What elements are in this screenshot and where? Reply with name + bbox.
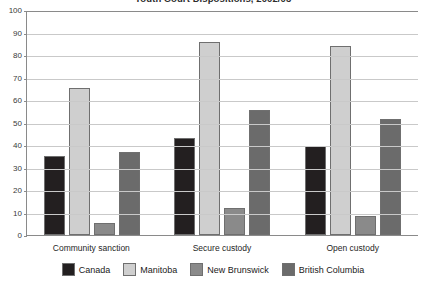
legend-swatch-icon xyxy=(123,263,136,276)
y-axis-tick-mark xyxy=(24,124,27,125)
y-axis-tick-mark xyxy=(24,79,27,80)
x-axis-category-label: Community sanction xyxy=(26,243,157,253)
bar xyxy=(119,152,140,235)
y-axis-tick-label: 80 xyxy=(0,52,22,60)
x-axis-category-labels: Community sanctionSecure custodyOpen cus… xyxy=(26,243,418,253)
chart-title: Youth Court Dispositions, 2002/03 xyxy=(0,0,426,5)
legend-item[interactable]: Canada xyxy=(62,263,111,276)
legend-swatch-icon xyxy=(62,263,75,276)
y-axis-tick-label: 30 xyxy=(0,165,22,173)
legend-label: Canada xyxy=(79,265,111,275)
grid-line xyxy=(27,146,418,147)
bar xyxy=(380,119,401,235)
y-axis-tick-label: 0 xyxy=(0,232,22,240)
legend-swatch-icon xyxy=(190,263,203,276)
grid-line xyxy=(27,169,418,170)
y-axis-tick-label: 100 xyxy=(0,7,22,15)
y-axis-tick-mark xyxy=(24,214,27,215)
grid-line xyxy=(27,79,418,80)
legend-item[interactable]: British Columbia xyxy=(282,263,365,276)
grid-line xyxy=(27,34,418,35)
y-axis-tick-label: 90 xyxy=(0,30,22,38)
chart-legend: CanadaManitobaNew BrunswickBritish Colum… xyxy=(0,263,426,276)
x-axis-category-label: Open custody xyxy=(287,243,418,253)
plot-wrapper: 1009080706050403020100 xyxy=(0,8,426,240)
legend-item[interactable]: Manitoba xyxy=(123,263,177,276)
y-axis-tick-mark xyxy=(24,169,27,170)
y-axis-tick-mark xyxy=(24,56,27,57)
grid-line xyxy=(27,191,418,192)
y-axis-tick-mark xyxy=(24,146,27,147)
x-axis-category-label: Secure custody xyxy=(157,243,288,253)
bar xyxy=(199,42,220,236)
y-axis: 1009080706050403020100 xyxy=(0,8,22,240)
y-axis-tick-label: 50 xyxy=(0,120,22,128)
y-axis-tick-label: 20 xyxy=(0,187,22,195)
y-axis-tick-label: 10 xyxy=(0,210,22,218)
plot-area xyxy=(26,11,418,236)
legend-label: New Brunswick xyxy=(207,265,269,275)
legend-item[interactable]: New Brunswick xyxy=(190,263,269,276)
bar-chart: Youth Court Dispositions, 2002/03 100908… xyxy=(0,0,426,287)
y-axis-tick-mark xyxy=(24,34,27,35)
y-axis-tick-label: 60 xyxy=(0,97,22,105)
y-axis-tick-mark xyxy=(24,191,27,192)
bar xyxy=(249,110,270,235)
y-axis-tick-label: 40 xyxy=(0,142,22,150)
y-axis-tick-mark xyxy=(24,236,27,237)
y-axis-tick-mark xyxy=(24,11,27,12)
bar xyxy=(330,46,351,235)
bar xyxy=(224,208,245,235)
y-axis-tick-mark xyxy=(24,101,27,102)
grid-line xyxy=(27,124,418,125)
grid-line xyxy=(27,56,418,57)
legend-swatch-icon xyxy=(282,263,295,276)
grid-line xyxy=(27,11,418,12)
grid-line xyxy=(27,214,418,215)
bar xyxy=(174,138,195,235)
bar xyxy=(355,216,376,235)
y-axis-tick-label: 70 xyxy=(0,75,22,83)
bar xyxy=(94,223,115,235)
legend-label: Manitoba xyxy=(140,265,177,275)
legend-label: British Columbia xyxy=(299,265,365,275)
grid-line xyxy=(27,101,418,102)
